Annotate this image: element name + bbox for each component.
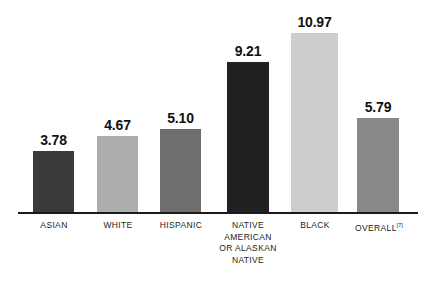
bar-value-label: 5.10 (167, 111, 193, 125)
bar-group-white[interactable]: 4.67 (97, 118, 138, 213)
bar-rect-overall[interactable] (357, 118, 399, 213)
bar-rect-hispanic[interactable] (160, 129, 201, 213)
category-label-overall: OVERALL[7] (338, 220, 420, 234)
category-label-line: AMERICAN (205, 232, 291, 244)
bar-group-overall[interactable]: 5.79 (357, 100, 399, 213)
x-axis-baseline (18, 212, 418, 214)
bar-rect-asian[interactable] (33, 151, 74, 213)
category-label-line: OVERALL[7] (338, 220, 420, 234)
plot-area: 3.78 4.67 5.10 9.21 10.97 5.79 (0, 0, 435, 214)
category-labels: ASIAN WHITE HISPANIC NATIVEAMERICANOR AL… (0, 216, 435, 285)
bar-value-label: 10.97 (297, 15, 331, 29)
bar-rect-white[interactable] (97, 136, 138, 213)
bar-value-label: 5.79 (365, 100, 391, 114)
bar-value-label: 4.67 (104, 118, 130, 132)
bar-value-label: 3.78 (40, 133, 66, 147)
bar-group-native-american-or-alaskan-native[interactable]: 9.21 (227, 44, 269, 214)
category-label-line: OR ALASKAN (205, 243, 291, 255)
bar-group-asian[interactable]: 3.78 (33, 133, 74, 213)
bar-rect-native-american-or-alaskan-native[interactable] (227, 62, 269, 214)
bar-chart: 3.78 4.67 5.10 9.21 10.97 5.79 ASIAN WHI… (0, 0, 435, 285)
category-label-line: NATIVE (205, 255, 291, 267)
footnote-reference: [7] (397, 222, 403, 228)
bar-group-hispanic[interactable]: 5.10 (160, 111, 201, 213)
bar-value-label: 9.21 (235, 44, 261, 58)
bar-rect-black[interactable] (291, 33, 338, 213)
bar-group-black[interactable]: 10.97 (291, 15, 338, 213)
